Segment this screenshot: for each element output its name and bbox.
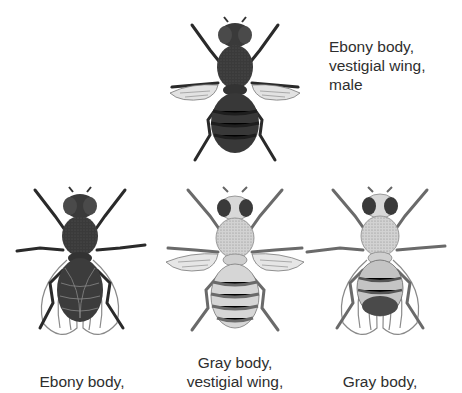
fly-illustration-icon <box>160 178 310 338</box>
label-line: Ebony body, <box>22 372 142 391</box>
fly-illustration-icon <box>160 5 310 165</box>
label-line: male <box>329 75 426 94</box>
label-line: vestigial wing, <box>165 372 305 391</box>
fly-ebony-vestigial-male <box>160 5 310 165</box>
label-ebony-body: Ebony body, <box>22 372 142 391</box>
label-line: Gray body, <box>165 353 305 372</box>
fly-illustration-icon <box>5 178 155 338</box>
label-line: Ebony body, <box>329 37 426 56</box>
label-gray-body: Gray body, <box>320 372 440 391</box>
label-gray-vestigial: Gray body, vestigial wing, <box>165 353 305 391</box>
fly-illustration-icon <box>305 178 455 338</box>
label-ebony-vestigial-male: Ebony body, vestigial wing, male <box>329 37 426 94</box>
fly-gray-vestigial-wing <box>160 178 310 338</box>
fly-gray-normal-wing <box>305 178 455 338</box>
label-line: Gray body, <box>320 372 440 391</box>
fly-ebony-normal-wing <box>5 178 155 338</box>
label-line: vestigial wing, <box>329 56 426 75</box>
